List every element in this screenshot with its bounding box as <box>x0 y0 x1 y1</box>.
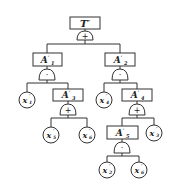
top-event-T: T′ <box>70 17 100 29</box>
and-gate-icon: · <box>112 69 128 80</box>
svg-text:x: x <box>134 165 140 175</box>
svg-text:4: 4 <box>106 100 109 105</box>
svg-text:5: 5 <box>126 133 130 139</box>
svg-text:x: x <box>149 128 155 138</box>
or-gate-icon: + <box>129 104 145 115</box>
and-gate-icon: · <box>39 69 55 80</box>
basic-event-x2: x ′ 2 <box>99 162 115 178</box>
svg-text:x: x <box>99 95 105 105</box>
svg-text:2: 2 <box>123 60 128 66</box>
svg-text:5: 5 <box>53 135 56 140</box>
event-A3: A′ 3 <box>53 89 83 101</box>
svg-text:3: 3 <box>156 133 159 138</box>
svg-text:3: 3 <box>72 95 76 101</box>
svg-text:1: 1 <box>51 60 54 66</box>
basic-event-x3: x ′ 3 <box>146 125 162 141</box>
svg-text:+: + <box>65 106 72 115</box>
basic-event-x6: x ′ 6 <box>79 127 95 143</box>
or-gate-icon: + <box>77 31 93 41</box>
event-A2: A′ 2 <box>105 53 135 66</box>
basic-event-x4: x ′ 4 <box>96 92 112 108</box>
svg-text:4: 4 <box>141 95 145 101</box>
svg-text:T′: T′ <box>80 18 90 29</box>
event-A1: A′ 1 <box>33 53 62 66</box>
svg-text:x: x <box>102 165 108 175</box>
and-gate-icon: · <box>114 142 130 153</box>
basic-event-x6: x ′ 6 <box>131 162 147 178</box>
svg-text:·: · <box>121 144 124 153</box>
fault-tree-diagram: T′ + A′ 1 · A′ 2 · x ′ 1 A′ 3 + <box>0 0 175 191</box>
svg-text:x: x <box>22 95 28 105</box>
basic-event-x1: x ′ 1 <box>19 92 35 108</box>
event-A4: A′ 4 <box>122 89 152 101</box>
basic-event-x5: x ′ 5 <box>43 127 59 143</box>
svg-text:1: 1 <box>29 100 32 105</box>
or-gate-icon: + <box>60 104 76 115</box>
svg-text:x: x <box>46 130 52 140</box>
svg-text:·: · <box>46 71 49 80</box>
event-A5: A′ 5 <box>107 126 138 139</box>
svg-text:2: 2 <box>108 170 112 175</box>
svg-text:+: + <box>134 106 141 115</box>
svg-text:+: + <box>82 32 89 41</box>
svg-text:x: x <box>82 130 88 140</box>
svg-text:·: · <box>119 71 122 80</box>
